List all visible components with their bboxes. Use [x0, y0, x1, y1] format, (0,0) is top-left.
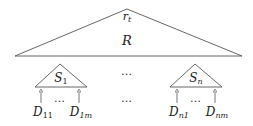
ellipsis-middle: … — [121, 92, 133, 105]
ellipsis-leaves-s1: … — [54, 92, 66, 105]
leaf-label-dn1: Dn1 — [169, 106, 189, 120]
subtree-label-sn: Sn — [189, 72, 202, 86]
subtree-label-s1: S1 — [54, 72, 67, 86]
root-name: R — [122, 34, 132, 47]
ellipsis-subtrees: … — [121, 65, 133, 78]
leaf-label-d1m: D1m — [70, 106, 92, 120]
leaf-label-dnm: Dnm — [206, 106, 228, 120]
leaf-label-d11: D11 — [33, 106, 53, 120]
root-label: rt — [123, 11, 131, 24]
ellipsis-leaves-sn: … — [190, 92, 202, 105]
